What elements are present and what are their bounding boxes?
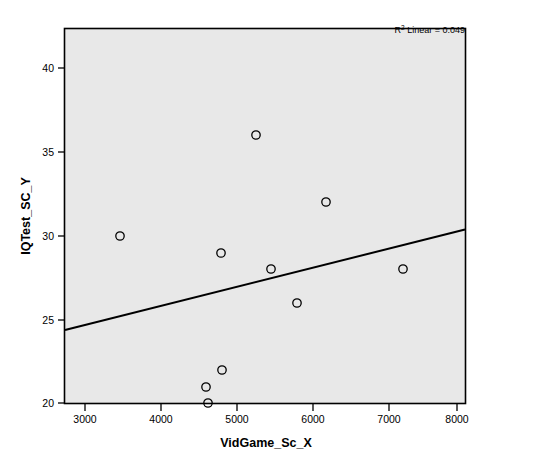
y-axis-title: IQTest_SC_Y <box>19 177 33 255</box>
chart-canvas: 40 35 30 25 20 3000 4000 5000 6000 7000 … <box>0 0 556 467</box>
plot-area-frame <box>65 29 466 404</box>
x-tick-label-7000: 7000 <box>377 413 401 425</box>
x-tick-label-4000: 4000 <box>149 413 173 425</box>
y-tick-label-30: 30 <box>42 230 54 242</box>
y-axis-tick-labels: 40 35 30 25 20 <box>42 62 54 409</box>
x-tick-label-5000: 5000 <box>225 413 249 425</box>
x-axis-tick-labels: 3000 4000 5000 6000 7000 8000 <box>73 413 469 425</box>
y-tick-label-40: 40 <box>42 62 54 74</box>
y-tick-label-25: 25 <box>42 314 54 326</box>
x-tick-label-6000: 6000 <box>301 413 325 425</box>
x-axis-ticks <box>85 404 457 412</box>
r-squared-annotation: R2 Linear = 0.049 <box>395 24 465 35</box>
y-tick-label-20: 20 <box>42 397 54 409</box>
x-tick-label-3000: 3000 <box>73 413 97 425</box>
y-tick-label-35: 35 <box>42 146 54 158</box>
x-axis-title: VidGame_Sc_X <box>220 436 312 450</box>
r-squared-text: Linear = 0.049 <box>405 25 465 35</box>
y-axis-ticks <box>58 68 65 403</box>
x-tick-label-8000: 8000 <box>445 413 469 425</box>
scatter-plot-figure: 40 35 30 25 20 3000 4000 5000 6000 7000 … <box>0 0 556 467</box>
